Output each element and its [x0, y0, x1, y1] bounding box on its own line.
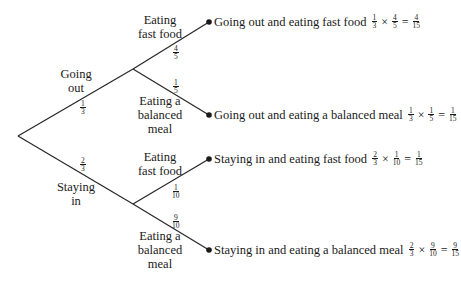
prob-out-fast-food: 4 5 [173, 45, 179, 60]
label-staying-in: Staying in [52, 180, 100, 208]
outcome-out-balanced: Going out and eating a balanced meal 13 … [214, 107, 459, 122]
equals-sign: = [438, 108, 445, 122]
outcome-text: Going out and eating fast food [214, 15, 366, 29]
fraction: 15 [428, 107, 434, 122]
label-going-out: Going out [54, 67, 98, 95]
times-sign: × [418, 243, 425, 257]
outcome-in-balanced: Staying in and eating a balanced meal 23… [214, 242, 461, 257]
equals-sign: = [402, 15, 409, 29]
prob-staying-in: 2 3 [80, 157, 86, 172]
leaf-dot-4 [206, 247, 212, 253]
fraction-result: 415 [413, 14, 421, 29]
prob-going-out: 1 3 [80, 100, 86, 115]
fraction: 23 [409, 242, 415, 257]
fraction: 910 [429, 242, 437, 257]
prob-out-balanced: 1 5 [173, 79, 179, 94]
label-in-fast-food: Eating fast food [134, 150, 186, 178]
leaf-dot-1 [206, 19, 212, 25]
prob-in-balanced: 9 10 [172, 214, 180, 229]
times-sign: × [382, 152, 389, 166]
fraction-result: 915 [451, 242, 459, 257]
fraction-result: 115 [449, 107, 457, 122]
label-out-balanced: Eating a balanced meal [134, 94, 186, 136]
fraction: 45 [392, 14, 398, 29]
equals-sign: = [441, 243, 448, 257]
fraction: 13 [408, 107, 414, 122]
equals-sign: = [404, 152, 411, 166]
outcome-out-fast-food: Going out and eating fast food 13 × 45 =… [214, 14, 422, 29]
times-sign: × [381, 15, 388, 29]
label-in-balanced: Eating a balanced meal [134, 229, 186, 271]
label-out-fast-food: Eating fast food [134, 13, 186, 41]
leaf-dot-2 [206, 112, 212, 118]
outcome-in-fast-food: Staying in and eating fast food 23 × 110… [214, 151, 425, 166]
outcome-text: Staying in and eating fast food [214, 152, 367, 166]
fraction: 23 [372, 151, 378, 166]
times-sign: × [418, 108, 425, 122]
leaf-dot-3 [206, 156, 212, 162]
prob-in-fast-food: 1 10 [172, 184, 180, 199]
fraction-result: 115 [415, 151, 423, 166]
fraction: 13 [372, 14, 378, 29]
fraction: 110 [393, 151, 401, 166]
outcome-text: Staying in and eating a balanced meal [214, 243, 404, 257]
outcome-text: Going out and eating a balanced meal [214, 108, 403, 122]
